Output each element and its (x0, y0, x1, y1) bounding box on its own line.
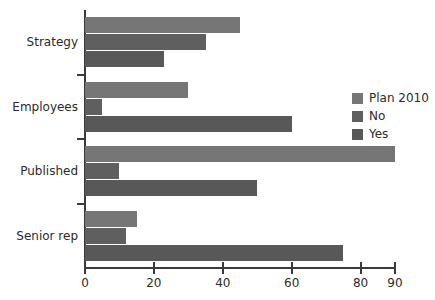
x-axis-tick-20 (153, 262, 155, 274)
bar-chart: StrategyEmployeesPublishedSenior rep Pla… (0, 0, 435, 300)
bar-senior-rep-plan-2010 (85, 211, 137, 227)
bar-published-yes (85, 180, 257, 196)
x-axis-label-20: 20 (146, 276, 161, 290)
y-axis-label-senior-rep: Senior rep (16, 229, 78, 243)
bar-employees-plan-2010 (85, 82, 188, 98)
y-axis-label-published: Published (20, 164, 78, 178)
bar-employees-yes (85, 116, 292, 132)
bar-senior-rep-no (85, 228, 126, 244)
y-axis-tick (77, 203, 85, 205)
legend-item-no[interactable]: No (352, 108, 429, 124)
bar-strategy-no (85, 34, 206, 50)
y-axis-tick (77, 74, 85, 76)
legend-label: No (369, 109, 385, 123)
bar-employees-no (85, 99, 102, 115)
x-axis-label-40: 40 (215, 276, 230, 290)
y-axis-label-employees: Employees (12, 100, 78, 114)
x-axis-tick-40 (222, 262, 224, 274)
legend-label: Yes (369, 127, 388, 141)
legend-item-yes[interactable]: Yes (352, 126, 429, 142)
y-axis-labels: StrategyEmployeesPublishedSenior rep (0, 0, 78, 300)
y-axis-label-strategy: Strategy (27, 35, 78, 49)
x-axis-label-0: 0 (81, 276, 89, 290)
x-axis-label-90: 90 (387, 276, 402, 290)
bar-published-plan-2010 (85, 146, 395, 162)
x-axis-label-60: 60 (284, 276, 299, 290)
x-axis-label-80: 80 (353, 276, 368, 290)
bar-strategy-yes (85, 51, 164, 67)
bar-strategy-plan-2010 (85, 17, 240, 33)
x-axis-tick-80 (360, 262, 362, 274)
bar-senior-rep-yes (85, 245, 343, 261)
x-axis-tick-90 (394, 262, 396, 274)
bar-published-no (85, 163, 119, 179)
plot-area (85, 10, 395, 268)
y-axis-tick (77, 138, 85, 140)
chart-legend: Plan 2010NoYes (352, 90, 429, 144)
x-axis-tick-0 (84, 262, 86, 274)
legend-swatch-icon (352, 111, 363, 122)
legend-label: Plan 2010 (369, 91, 429, 105)
x-axis-tick-60 (291, 262, 293, 274)
legend-item-plan-2010[interactable]: Plan 2010 (352, 90, 429, 106)
legend-swatch-icon (352, 93, 363, 104)
legend-swatch-icon (352, 129, 363, 140)
